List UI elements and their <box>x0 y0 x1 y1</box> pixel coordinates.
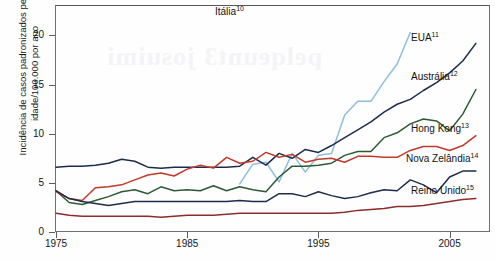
chart-figure: pelqeunt3 josuimi Incidência de casos pa… <box>0 0 495 261</box>
reference-superscript: 13 <box>461 122 469 129</box>
x-tick-label: 2005 <box>439 238 461 249</box>
series-line-it-lia <box>240 33 411 184</box>
y-tick-mark <box>49 35 55 36</box>
x-tick-label: 1975 <box>45 238 67 249</box>
y-tick-mark <box>49 85 55 86</box>
reference-superscript: 15 <box>466 184 474 191</box>
x-tick-mark <box>56 232 57 238</box>
x-tick-mark <box>318 232 319 238</box>
reference-superscript: 12 <box>450 70 458 77</box>
series-label-hong-kong: Hong Kong13 <box>411 122 469 134</box>
reference-superscript: 10 <box>236 5 244 12</box>
reference-superscript: 14 <box>470 152 478 159</box>
y-tick-mark <box>49 134 55 135</box>
series-label-it-lia: Itália10 <box>215 5 244 17</box>
series-label-nova-zel-ndia: Nova Zelândia14 <box>406 152 478 164</box>
x-tick-mark <box>187 232 188 238</box>
series-label-reino-unido: Reino Unido15 <box>411 184 474 196</box>
series-label-austr-lia: Austrália12 <box>411 70 458 82</box>
x-tick-mark <box>450 232 451 238</box>
x-tick-label: 1995 <box>307 238 329 249</box>
x-tick-label: 1985 <box>176 238 198 249</box>
reference-superscript: 11 <box>432 31 439 38</box>
series-label-eua: EUA11 <box>411 31 439 43</box>
y-tick-mark <box>49 183 55 184</box>
y-tick-mark <box>49 232 55 233</box>
